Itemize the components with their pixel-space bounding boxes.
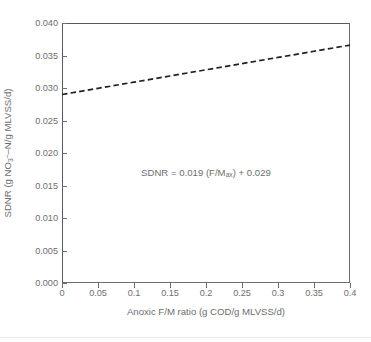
- x-tick-mark: [206, 283, 207, 288]
- x-tick-label: 0.1: [128, 288, 141, 298]
- x-tick-label: 0.3: [272, 288, 285, 298]
- x-tick-label: 0.05: [89, 288, 107, 298]
- x-tick-mark: [242, 283, 243, 288]
- x-tick-mark: [314, 283, 315, 288]
- y-tick-label: 0.010: [16, 213, 58, 223]
- x-tick-mark: [134, 283, 135, 288]
- equation-part-2: ) + 0.029: [233, 167, 271, 178]
- equation-annotation: SDNR = 0.019 (F/Max) + 0.029: [62, 167, 350, 178]
- y-axis-title-suffix: –N/g MLVSS/d): [2, 89, 13, 155]
- y-tick-label: 0.015: [16, 181, 58, 191]
- y-tick-mark: [62, 56, 67, 57]
- y-tick-mark: [62, 218, 67, 219]
- x-tick-label: 0.4: [344, 288, 357, 298]
- x-tick-mark: [170, 283, 171, 288]
- x-tick-mark: [98, 283, 99, 288]
- y-axis-title: SDNR (g NO3––N/g MLVSS/d): [0, 23, 14, 283]
- chart-figure: 0.0000.0050.0100.0150.0200.0250.0300.035…: [0, 0, 371, 342]
- x-tick-label: 0.15: [161, 288, 179, 298]
- y-tick-label: 0.020: [16, 148, 58, 158]
- x-tick-label: 0.35: [305, 288, 323, 298]
- y-axis-title-prefix: SDNR (g NO: [2, 162, 13, 217]
- x-tick-label: 0.25: [233, 288, 251, 298]
- series-sdnr-regression-line: [62, 45, 350, 94]
- y-axis-tick-labels: 0.0000.0050.0100.0150.0200.0250.0300.035…: [10, 23, 58, 283]
- y-tick-label: 0.005: [16, 246, 58, 256]
- x-axis-title: Anoxic F/M ratio (g COD/g MLVSS/d): [62, 306, 350, 317]
- x-tick-mark: [350, 283, 351, 288]
- y-tick-label: 0.000: [16, 278, 58, 288]
- y-tick-label: 0.040: [16, 18, 58, 28]
- bottom-divider: [0, 337, 371, 338]
- equation-subscript-ax: ax: [226, 171, 233, 178]
- y-tick-label: 0.025: [16, 116, 58, 126]
- equation-part-1: SDNR = 0.019 (F/M: [141, 167, 226, 178]
- nitrate-subscript: 3: [7, 158, 14, 162]
- y-tick-label: 0.035: [16, 51, 58, 61]
- y-tick-mark: [62, 23, 67, 24]
- series-line-layer: [62, 23, 350, 283]
- x-tick-mark: [278, 283, 279, 288]
- x-tick-label: 0.2: [200, 288, 213, 298]
- x-axis-tick-labels: 00.050.10.150.20.250.30.350.4: [62, 288, 350, 302]
- x-tick-label: 0: [59, 288, 64, 298]
- x-tick-mark: [62, 283, 63, 288]
- y-tick-mark: [62, 186, 67, 187]
- y-tick-label: 0.030: [16, 83, 58, 93]
- y-tick-mark: [62, 153, 67, 154]
- y-tick-mark: [62, 121, 67, 122]
- nitrate-charge-superscript: –: [3, 155, 10, 159]
- y-tick-mark: [62, 88, 67, 89]
- y-tick-mark: [62, 251, 67, 252]
